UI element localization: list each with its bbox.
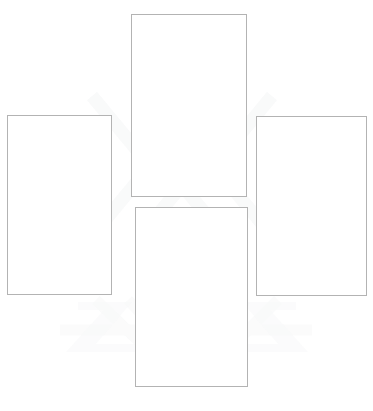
frame-bottom[interactable] [135, 207, 248, 387]
frame-left[interactable] [7, 115, 112, 295]
frame-canvas [0, 0, 373, 411]
frame-top[interactable] [131, 14, 247, 197]
frame-right[interactable] [256, 116, 367, 296]
